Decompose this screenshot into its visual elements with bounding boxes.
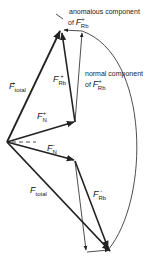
F-total-minus-label: Ftotal- bbox=[30, 186, 35, 195]
F-Rb-minus-vector bbox=[75, 161, 108, 248]
plus-sign: + bbox=[81, 16, 85, 22]
F-symbol: F bbox=[53, 74, 59, 84]
vector-diagram bbox=[0, 0, 160, 257]
normal-component-label: normal component bbox=[85, 70, 143, 77]
of-text: of bbox=[85, 81, 91, 88]
subscript-Rb: Rb bbox=[99, 195, 107, 201]
anomalous-component-minus-vector bbox=[87, 250, 109, 252]
minus-sign: - bbox=[33, 184, 35, 190]
normal-component-label-line2: of F+Rb bbox=[85, 80, 105, 89]
anomalous-component-label-line2: of F+Rb bbox=[68, 18, 88, 27]
plus-sign: + bbox=[43, 110, 47, 116]
plus-sign: + bbox=[60, 73, 64, 79]
minus-sign: - bbox=[100, 188, 102, 194]
subscript-N: N bbox=[43, 117, 47, 123]
F-N-minus-label: FN- bbox=[47, 144, 55, 153]
plus-sign: + bbox=[98, 78, 102, 84]
F-Rb-minus-label: FRb- bbox=[93, 190, 102, 199]
F-symbol: F bbox=[93, 189, 99, 199]
anomalous-pointer bbox=[56, 14, 63, 19]
minus-sign: - bbox=[53, 142, 55, 148]
F-N-plus-vector bbox=[7, 122, 74, 142]
F-symbol: F bbox=[47, 143, 53, 153]
F-symbol: F bbox=[37, 111, 43, 121]
subscript-total: total bbox=[36, 191, 47, 197]
F-total-plus-label: Ftotal+ bbox=[9, 82, 15, 91]
F-N-plus-label: FN+ bbox=[37, 112, 46, 121]
plus-sign: + bbox=[12, 80, 16, 86]
F-Rb-plus-label: FRb+ bbox=[53, 75, 64, 84]
anomalous-component-plus-vector bbox=[64, 30, 82, 31]
subscript-Rb: Rb bbox=[59, 80, 67, 86]
subscript-total: total bbox=[15, 87, 26, 93]
anomalous-component-label: anomalous component bbox=[69, 8, 140, 15]
F-N-minus-vector bbox=[7, 142, 74, 160]
subscript-Rb: Rb bbox=[98, 85, 106, 91]
subscript-N: N bbox=[53, 149, 57, 155]
subscript-Rb: Rb bbox=[81, 23, 89, 29]
rotation-arc bbox=[82, 31, 137, 250]
of-text: of bbox=[68, 19, 74, 26]
normal-component-plus-vector bbox=[75, 33, 82, 122]
